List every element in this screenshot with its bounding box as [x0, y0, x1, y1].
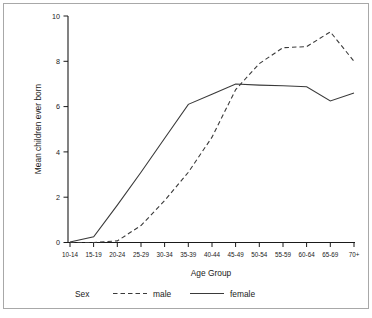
x-tick-label: 15-19 [86, 251, 103, 258]
y-tick-label: 2 [56, 193, 60, 202]
series-line-female [70, 84, 354, 242]
x-tick-label: 25-29 [133, 251, 150, 258]
line-chart-canvas: 0 2 4 6 8 10 Mean children ever born [0, 0, 372, 318]
legend-title: Sex [75, 289, 90, 299]
x-axis-tick-labels: 10-14 15-19 20-24 25-29 30-34 35-39 40-4… [62, 251, 360, 258]
x-tick-label: 70+ [349, 251, 360, 258]
x-tick-label: 45-49 [228, 251, 245, 258]
x-tick-label: 55-59 [275, 251, 292, 258]
x-tick-label: 60-64 [299, 251, 316, 258]
y-axis-tick-labels: 0 2 4 6 8 10 [52, 12, 60, 248]
x-tick-label: 50-54 [251, 251, 268, 258]
legend-label-female: female [230, 289, 255, 299]
x-tick-label: 30-34 [157, 251, 174, 258]
x-axis-ticks [70, 243, 354, 248]
x-tick-label: 65-69 [322, 251, 339, 258]
y-tick-label: 4 [56, 148, 60, 157]
chart-figure: 0 2 4 6 8 10 Mean children ever born [0, 0, 372, 318]
chart-legend: Sex male female [75, 289, 255, 299]
x-tick-label: 40-44 [204, 251, 221, 258]
y-axis-title: Mean children ever born [33, 84, 43, 175]
y-tick-label: 6 [56, 102, 60, 111]
y-axis-ticks [64, 16, 69, 243]
x-tick-label: 20-24 [109, 251, 126, 258]
y-tick-label: 10 [52, 12, 60, 21]
legend-label-male: male [153, 289, 171, 299]
y-tick-label: 8 [56, 57, 60, 66]
x-tick-label: 10-14 [62, 251, 79, 258]
x-axis-title: Age Group [191, 268, 232, 278]
y-tick-label: 0 [56, 238, 60, 247]
x-tick-label: 35-39 [180, 251, 197, 258]
